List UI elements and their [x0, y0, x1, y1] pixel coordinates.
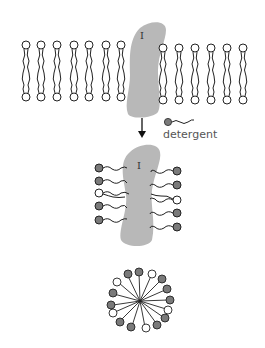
lipid: [207, 44, 215, 104]
detergent-molecule-icon: [164, 118, 194, 125]
lipid: [117, 41, 125, 101]
protein-label-solubilized: I: [137, 160, 141, 171]
down-arrow-icon: [138, 118, 146, 138]
lipid: [239, 44, 247, 104]
lipid-bilayer-left: [22, 41, 125, 101]
detergent-micelle: [107, 268, 174, 332]
detergent-legend-label: detergent: [163, 128, 217, 141]
lipid: [175, 44, 183, 104]
diagram-canvas: [0, 0, 265, 348]
lipid-bilayer-right: [159, 44, 247, 104]
lipid: [85, 41, 93, 101]
lipid: [70, 41, 78, 101]
lipid: [53, 41, 61, 101]
lipid: [102, 41, 110, 101]
lipid: [37, 41, 45, 101]
protein-label: I: [140, 30, 144, 41]
lipid: [22, 41, 30, 101]
lipid: [223, 44, 231, 104]
lipid: [191, 44, 199, 104]
